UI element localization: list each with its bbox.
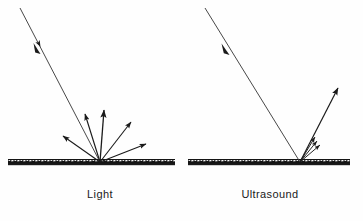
surface-ultrasound-baseline [188,164,350,166]
surface-light-texture [8,159,175,162]
figure-background [0,0,363,221]
surface-ultrasound-texture [188,159,350,162]
surface-light [8,159,175,165]
surface-ultrasound [188,159,350,165]
reflection-diagram [0,0,363,221]
surface-light-baseline [8,164,175,166]
panel-label-ultrasound: Ultrasound [241,188,298,200]
panel-label-light: Light [87,188,113,200]
